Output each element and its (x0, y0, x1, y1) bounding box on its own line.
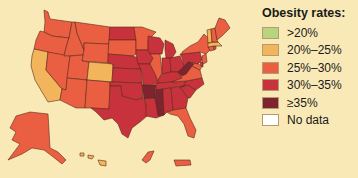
state-AR (142, 85, 156, 99)
territory-island (142, 151, 154, 163)
state-RI (214, 46, 216, 50)
legend-item: 25%–30% (262, 59, 356, 77)
state-NE (108, 54, 141, 69)
state-WY (82, 43, 109, 63)
legend-label: 30%–35% (287, 78, 342, 92)
state-PR (174, 160, 191, 166)
legend-swatch (262, 97, 279, 109)
legend-item: 30%–35% (262, 77, 356, 95)
state-AK (8, 112, 66, 164)
legend-label: >20% (287, 26, 318, 40)
state-NJ (202, 54, 207, 64)
legend-swatch (262, 114, 279, 126)
state-WI (148, 36, 164, 54)
state-ND (109, 27, 136, 40)
legend-swatch (262, 44, 279, 56)
legend-item: ≥35% (262, 94, 356, 112)
state-SD (108, 40, 136, 56)
legend-label: 25%–30% (287, 61, 342, 75)
state-ME (215, 18, 230, 40)
state-MI (165, 40, 176, 58)
legend-label: 20%–25% (287, 43, 342, 57)
legend-swatch (262, 27, 279, 39)
legend-swatch (262, 62, 279, 74)
state-HI-3 (98, 160, 106, 166)
legend-item: No data (262, 112, 356, 130)
state-KS (112, 68, 142, 83)
map-legend: Obesity rates: >20% 20%–25% 25%–30% 30%–… (262, 6, 356, 129)
legend-title: Obesity rates: (262, 6, 356, 20)
state-NM (85, 80, 110, 109)
legend-item: >20% (262, 24, 356, 42)
legend-item: 20%–25% (262, 42, 356, 60)
legend-swatch (262, 79, 279, 91)
state-NY (182, 34, 210, 54)
state-FL (167, 108, 196, 138)
state-CO (87, 62, 113, 82)
us-obesity-map (0, 0, 260, 178)
state-IN (162, 58, 171, 74)
legend-label: ≥35% (287, 96, 318, 110)
legend-label: No data (287, 113, 329, 127)
state-HI (80, 153, 84, 156)
state-HI-2 (88, 155, 94, 159)
